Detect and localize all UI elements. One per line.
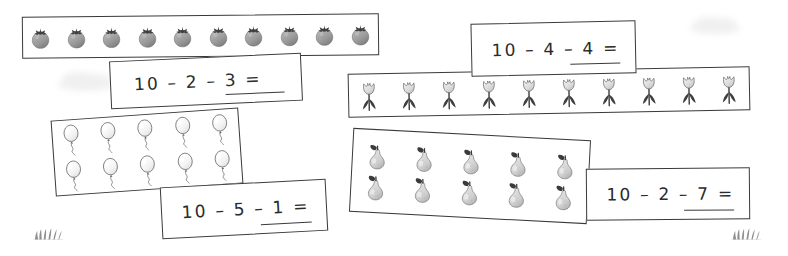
balloon-icon bbox=[97, 118, 120, 154]
tulip-icon bbox=[518, 75, 541, 109]
pear-icon bbox=[551, 150, 579, 181]
tulip-icon bbox=[598, 74, 621, 108]
strawberry-icon bbox=[170, 24, 195, 49]
tulip-icon bbox=[678, 72, 701, 106]
balloon-icon bbox=[134, 116, 157, 152]
pear-icon bbox=[455, 176, 483, 207]
equation-card-pears: 10 – 2 – 7 = bbox=[586, 167, 750, 220]
picture-box-strawberries bbox=[22, 13, 379, 59]
pear-icon bbox=[410, 142, 438, 173]
strawberry-icon bbox=[241, 23, 266, 48]
strawberry-icon bbox=[312, 22, 337, 47]
equation-text: 10 – 2 – 7 = bbox=[606, 183, 734, 204]
equation-card-strawberries: 10 – 2 – 3 = bbox=[109, 53, 303, 110]
equation-card-balloons: 10 – 5 – 1 = bbox=[160, 179, 328, 240]
balloon-icon bbox=[171, 113, 194, 149]
balloon-icon bbox=[211, 147, 234, 183]
pear-icon bbox=[363, 140, 391, 171]
pear-icon bbox=[504, 147, 532, 178]
balloon-icon bbox=[60, 121, 83, 157]
equation-card-tulips: 10 – 4 – 4 = bbox=[470, 20, 636, 76]
tulip-icon bbox=[358, 78, 381, 112]
picture-box-balloons bbox=[51, 108, 244, 197]
strawberry-icon bbox=[348, 22, 373, 47]
tulip-icon bbox=[478, 76, 501, 110]
worksheet-page: 10 – 2 – 3 = 10 – 4 – 4 = bbox=[0, 0, 788, 256]
tulip-icon bbox=[438, 77, 461, 111]
item-row bbox=[349, 71, 750, 113]
strawberry-icon bbox=[64, 25, 89, 50]
tulip-icon bbox=[398, 77, 421, 111]
balloon-icon bbox=[137, 152, 160, 188]
balloon-icon bbox=[174, 149, 197, 185]
strawberry-icon bbox=[277, 22, 302, 47]
balloon-icon bbox=[99, 154, 122, 190]
tulip-icon bbox=[718, 71, 741, 105]
strawberry-icon bbox=[99, 24, 124, 49]
pear-icon bbox=[457, 145, 485, 176]
grass-tuft-icon bbox=[31, 226, 67, 240]
cloud-icon bbox=[690, 22, 740, 34]
answer-blank-balloons[interactable] bbox=[261, 221, 312, 225]
item-row bbox=[23, 22, 378, 51]
equation-text: 10 – 4 – 4 = bbox=[491, 37, 619, 60]
answer-blank-pears[interactable] bbox=[684, 209, 734, 210]
answer-blank-tulips[interactable] bbox=[570, 63, 621, 65]
tulip-icon bbox=[558, 74, 581, 108]
pear-icon bbox=[503, 178, 531, 209]
pear-icon bbox=[550, 181, 578, 212]
cloud-icon bbox=[58, 78, 114, 91]
tulip-icon bbox=[638, 73, 661, 107]
grass-tuft-icon bbox=[729, 226, 765, 240]
equation-text: 10 – 5 – 1 = bbox=[181, 196, 310, 223]
strawberry-icon bbox=[206, 23, 231, 48]
pear-icon bbox=[361, 171, 389, 202]
pear-icon bbox=[408, 173, 436, 204]
strawberry-icon bbox=[28, 25, 53, 50]
answer-blank-strawberries[interactable] bbox=[226, 92, 285, 96]
strawberry-icon bbox=[135, 24, 160, 49]
equation-text: 10 – 2 – 3 = bbox=[133, 68, 262, 94]
balloon-icon bbox=[62, 157, 85, 193]
picture-box-pears bbox=[349, 128, 591, 224]
balloon-icon bbox=[208, 111, 231, 147]
